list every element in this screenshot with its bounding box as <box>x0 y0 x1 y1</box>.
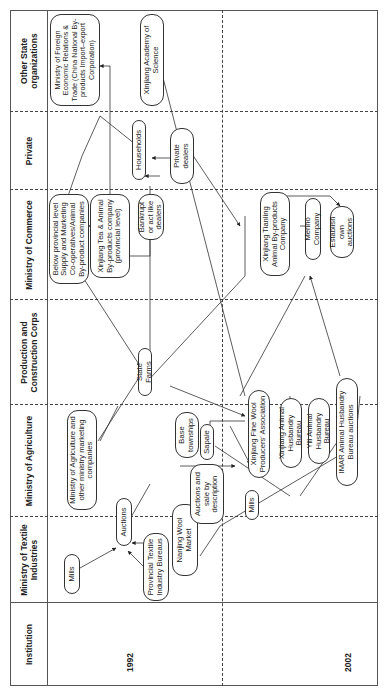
column-divider-pcc <box>10 299 378 300</box>
column-divider-commerce <box>10 189 378 190</box>
year-label-2002: 2002 <box>343 653 353 672</box>
node-moa-marketing-companies: Ministry of Agriculture and other minist… <box>67 410 97 510</box>
column-header-institution: Institution <box>12 603 46 686</box>
column-header-commerce: Ministry of Commerce <box>12 190 46 300</box>
period-divider <box>222 10 223 686</box>
node-private-dealers: Private dealers <box>170 128 194 184</box>
node-mofert: Ministry of Foreign Economic Relations &… <box>50 14 100 106</box>
node-sapale: Sapale <box>200 424 214 460</box>
node-xinjiang-tianling-company: Xinjiang Tianling Animal By-products Com… <box>260 192 290 276</box>
column-divider-institution <box>10 602 378 603</box>
node-xinjiang-fine-wool-association: Xinjiang Fine Wool Producers' Associatio… <box>248 390 270 478</box>
year-label-1992: 1992 <box>125 653 135 672</box>
node-auctions-sale-by-description: Auctions and sale by description <box>190 464 224 524</box>
node-below-provincial-coops: Below provincial level Supply and Market… <box>49 194 89 284</box>
node-merino-company: Merino Company <box>305 198 321 260</box>
column-divider-private <box>10 111 378 112</box>
node-imar-auctions: IMAR Animal Husbandry Bureau auctions <box>336 378 358 486</box>
node-yili-husbandry-bureau: Yili Animal Husbandry Bureau <box>308 398 330 464</box>
column-header-other: Other State organizations <box>12 10 46 112</box>
node-auctions-1992: Auctions <box>116 498 132 546</box>
node-mills-2002: Mills <box>245 490 259 520</box>
wool-marketing-institutions-diagram: Institution Ministry of Textile Industri… <box>0 0 390 696</box>
column-header-pcc: Production and Construction Corps <box>12 300 46 405</box>
node-bankrupt-dealers: Bankrupt or act like dealers <box>138 194 164 240</box>
node-provincial-textile-bureaus: Provincial Textile Industry Bureaus <box>143 533 169 601</box>
node-mills-1992: Mills <box>64 554 80 594</box>
node-households: Households <box>132 120 146 180</box>
node-xinjiang-animal-husbandry-bureau: Xinjiang Animal Husbandry Bureau <box>280 398 302 468</box>
column-header-private: Private <box>12 112 46 190</box>
column-header-agriculture: Ministry of Agriculture <box>12 405 46 517</box>
node-base-townships: Base townships <box>175 412 199 458</box>
node-state-farms: State Farms <box>138 348 152 396</box>
column-header-textile: Ministry of Textile Industries <box>12 517 46 603</box>
node-establish-own-auctions: Establish own auctions <box>330 206 354 258</box>
node-xinjiang-academy: Xinjiang Academy of Science <box>140 14 164 106</box>
node-xinjiang-tea-company: Xinjiang Tea & Animal By-products compan… <box>90 194 130 278</box>
